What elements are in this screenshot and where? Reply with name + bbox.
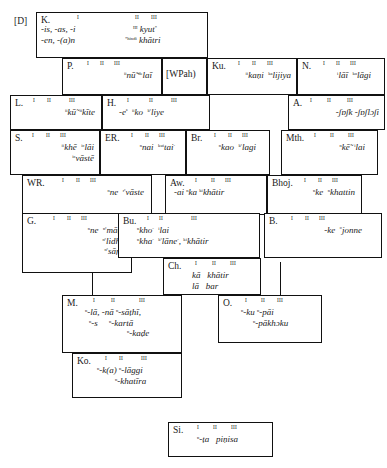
lang-label-Br: Br.: [191, 133, 202, 143]
numeral-III: III: [267, 60, 273, 66]
numeral-I: I: [62, 177, 64, 183]
connector-line: [280, 262, 281, 295]
forms-Aw: -ai nka kikhātir: [170, 187, 263, 198]
lang-label-Mth: Mth.: [286, 133, 304, 143]
forms-A: -ʃɒʃk -ʃɒʃlɔʃi: [293, 107, 381, 118]
numeral-row: Bhoj. I II III: [272, 178, 358, 187]
cell-G: G. I II III nne nᶜmāṭe nᶜlidhe nᶜsāṛu: [22, 213, 132, 273]
numeral-III: III: [350, 60, 356, 66]
forms-B: -ke ᵉʳjonne: [269, 225, 378, 236]
numeral-III: III: [139, 297, 145, 303]
numeral-III: III: [231, 424, 237, 430]
forms-L: iikū̃ iikīte: [15, 107, 98, 118]
cell-WR: WR. I II III nne rᶜvāste: [22, 175, 152, 215]
numeral-I: I: [127, 97, 129, 103]
lang-label-P: P.: [67, 61, 74, 71]
numeral-II: II: [76, 177, 80, 183]
cell-A: A. I II III -ʃɒʃk -ʃɒʃlɔʃi: [288, 95, 385, 130]
numeral-row: K. I II III: [41, 15, 204, 24]
lang-label-ER: ER.: [105, 133, 120, 143]
lang-label-A: A.: [293, 98, 302, 108]
cell-Ch: Ch. I II III kā khātir lā bar: [163, 258, 261, 295]
lang-label-Bu: Bu.: [123, 216, 136, 226]
numeral-III: III: [347, 97, 353, 103]
numeral-III: III: [225, 177, 231, 183]
numeral-II: II: [211, 177, 215, 183]
numeral-I: I: [314, 132, 316, 138]
numeral-I: I: [93, 297, 95, 303]
numeral-I: I: [214, 132, 216, 138]
lang-label-M: M.: [67, 298, 78, 308]
numeral-I: I: [32, 132, 34, 138]
forms-Si: n-ṭa piṇisa: [173, 434, 269, 445]
numeral-row: A. I II III: [293, 98, 381, 107]
cell-S: S. I II III iikhē iclāi icvāstē: [10, 130, 100, 175]
numeral-I: I: [33, 97, 35, 103]
forms-M: n-lā, -nā n-sāṭhī, n-s n-kartā n-kaḍe: [67, 307, 178, 339]
cell-WPah: [WPah): [162, 58, 207, 95]
tag-d: [D]: [14, 16, 27, 27]
lang-label-S: S.: [15, 133, 23, 143]
numeral-II: II: [336, 60, 340, 66]
lang-label-B: B.: [269, 216, 278, 226]
numeral-row: Aw. I II III: [170, 178, 263, 187]
forms-Mth: nkē̃ ilai: [286, 142, 374, 153]
lang-label-O: O.: [223, 298, 232, 308]
numeral-row: Ku. I II III: [212, 61, 293, 70]
tag-wpah: [WPah): [166, 69, 196, 80]
numeral-II: II: [135, 14, 139, 20]
cell-N: N. I II III ilāī kolāgi: [297, 58, 385, 95]
dialect-continuum-diagram: [D] K. I II III -is, -as, -iIII kyut* -e…: [0, 0, 387, 468]
numeral-I: I: [87, 60, 89, 66]
numeral-row: ER. I II III: [105, 133, 182, 142]
lang-label-G: G.: [27, 216, 36, 226]
cell-ER: ER. I II III nnai kuitai-: [100, 130, 186, 175]
cell-B: B. I II III -ke ᵉʳjonne: [264, 213, 382, 258]
cell-K: K. I II III -is, -as, -iIII kyut* -en, -…: [36, 12, 208, 58]
lang-label-H: H.: [107, 98, 116, 108]
numeral-I: I: [131, 132, 133, 138]
forms-Br: nkao kᶜlagi: [191, 142, 266, 153]
numeral-row: Br. I II III: [191, 133, 266, 142]
numeral-III: III: [151, 14, 157, 20]
numeral-row: G. I II III: [27, 216, 128, 225]
cell-P: P. I II III iinū̃ -delaī: [62, 58, 162, 95]
numeral-I: I: [323, 60, 325, 66]
numeral-III: III: [277, 297, 283, 303]
numeral-row: Mth. I II III: [286, 133, 374, 142]
forms-Ko: n-k(a) n-lāggi n-khatīra: [77, 365, 178, 386]
numeral-III: III: [191, 215, 197, 221]
forms-Bu: nkho- ilai nkha- kᶜlāne-, kikhātir: [123, 225, 256, 246]
forms-H: -eⁿ iiko kᶜliye: [107, 107, 206, 118]
lang-label-Ko: Ko.: [77, 356, 91, 366]
lang-label-Ku: Ku.: [212, 61, 226, 71]
numeral-II: II: [100, 60, 104, 66]
cell-Br: Br. I II III nkao kᶜlagi: [186, 130, 270, 175]
numeral-row: Si. I II III: [173, 425, 269, 434]
numeral-II: II: [212, 260, 216, 266]
forms-O: n-ku n-pāi n-pākhɔku: [223, 307, 318, 328]
lang-label-Si: Si.: [173, 425, 183, 435]
numeral-I: I: [195, 260, 197, 266]
forms-ER: nnai kuitai-: [105, 142, 182, 153]
numeral-II: II: [46, 132, 50, 138]
numeral-III: III: [159, 132, 165, 138]
numeral-I: I: [304, 177, 306, 183]
cell-Ko: Ko. I II III n-k(a) n-lāggi n-khatīra: [72, 353, 182, 398]
numeral-III: III: [332, 177, 338, 183]
cell-Bu: Bu. I II III nkho- ilai nkha- kᶜlāne-, k…: [118, 213, 260, 258]
forms-Ku: iikaṇi kalijiya: [212, 70, 293, 81]
numeral-II: II: [213, 424, 217, 430]
cell-Mth: Mth. I II III nkē̃ ilai: [281, 130, 378, 175]
numeral-I: I: [53, 215, 55, 221]
numeral-row: B. I II III: [269, 216, 378, 225]
cell-L: L. I II III iikū̃ iikīte: [10, 95, 102, 130]
numeral-III: III: [69, 97, 75, 103]
numeral-I: I: [291, 215, 293, 221]
forms-N: ilāī kolāgi: [302, 70, 381, 81]
numeral-III: III: [114, 60, 120, 66]
forms-K: -is, -as, -iIII kyut* -en, -(a)n*hindi k…: [41, 24, 204, 45]
cell-Bhoj: Bhoj. I II III nke nkhattin: [267, 175, 362, 215]
numeral-row: O. I II III: [223, 298, 318, 307]
forms-G: nne nᶜmāṭe nᶜlidhe nᶜsāṛu: [27, 225, 128, 257]
